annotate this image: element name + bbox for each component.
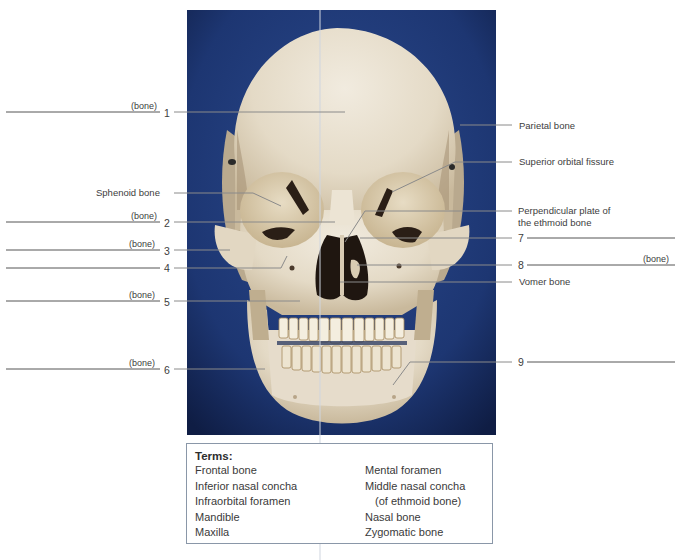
label-perpendicular-plate-line1: Perpendicular plate of (518, 205, 610, 216)
term-item: Frontal bone (195, 463, 365, 479)
label-superior-orbital-fissure: Superior orbital fissure (519, 156, 614, 167)
term-item: Infraorbital foramen (195, 494, 365, 510)
label-vomer-bone: Vomer bone (519, 276, 570, 287)
blank-6-suffix: (bone) (129, 358, 155, 368)
blank-2-suffix: (bone) (131, 211, 157, 221)
label-7-number: 7 (518, 232, 524, 244)
term-item: Middle nasal concha (365, 479, 465, 495)
terms-column-left: Frontal bone Inferior nasal concha Infra… (195, 463, 365, 541)
skull-photo (187, 10, 496, 435)
term-item: Mental foramen (365, 463, 465, 479)
label-8-number: 8 (518, 259, 524, 271)
terms-box: Terms: Frontal bone Inferior nasal conch… (186, 443, 493, 544)
label-perpendicular-plate-line2: the ethmoid bone (518, 217, 591, 228)
label-sphenoid-bone: Sphenoid bone (96, 187, 160, 198)
term-item: Zygomatic bone (365, 525, 465, 541)
blank-3-suffix: (bone) (129, 239, 155, 249)
terms-title: Terms: (195, 449, 492, 463)
term-item-continuation: (of ethmoid bone) (365, 494, 465, 510)
label-parietal-bone: Parietal bone (519, 120, 575, 131)
blank-1-suffix: (bone) (131, 101, 157, 111)
label-9-number: 9 (518, 356, 524, 368)
blank-5-suffix: (bone) (129, 290, 155, 300)
term-item: Inferior nasal concha (195, 479, 365, 495)
label-1-number: 1 (164, 107, 170, 119)
terms-column-right: Mental foramen Middle nasal concha (of e… (365, 463, 465, 541)
label-2-number: 2 (164, 217, 170, 229)
label-3-number: 3 (164, 245, 170, 257)
term-item: Mandible (195, 510, 365, 526)
blank-8-suffix: (bone) (643, 254, 669, 264)
label-6-number: 6 (164, 364, 170, 376)
term-item: Maxilla (195, 525, 365, 541)
label-4-number: 4 (164, 262, 170, 274)
label-5-number: 5 (164, 296, 170, 308)
term-item: Nasal bone (365, 510, 465, 526)
